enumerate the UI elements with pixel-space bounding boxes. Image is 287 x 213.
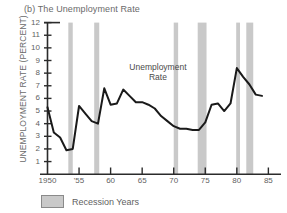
chart-legend: Recession Years [41, 195, 139, 208]
y-tick-label-11: 11 [26, 30, 40, 39]
recession-band-5 [246, 23, 253, 175]
series-annotation-line2: Rate [149, 72, 167, 82]
recession-band-0 [68, 23, 72, 175]
y-tick-label-4: 4 [26, 119, 40, 128]
x-tick-label-1980: 80 [223, 176, 251, 185]
y-tick-label-1: 1 [26, 157, 40, 166]
y-tick-label-2: 2 [26, 144, 40, 153]
x-ticks-group [79, 168, 268, 175]
x-tick-label-1970: 70 [160, 176, 188, 185]
series-annotation: Unemployment Rate [124, 62, 192, 82]
recession-band-3 [198, 23, 207, 175]
y-tick-label-5: 5 [26, 106, 40, 115]
axes-group [40, 22, 281, 174]
x-tick-label-1950: 1950 [34, 176, 62, 185]
y-tick-label-12: 12 [26, 18, 40, 27]
y-tick-label-7: 7 [26, 81, 40, 90]
recession-bands-group [68, 23, 253, 175]
x-tick-label-1985: 85 [254, 176, 282, 185]
y-tick-label-10: 10 [26, 43, 40, 52]
unemployment-rate-figure: (b) The Unemployment Rate UNEMPLOYMENT R… [0, 0, 287, 213]
y-tick-label-3: 3 [26, 131, 40, 140]
recession-band-4 [236, 23, 240, 175]
series-annotation-line1: Unemployment [129, 62, 186, 72]
legend-label: Recession Years [72, 197, 139, 207]
recession-band-2 [174, 23, 178, 175]
x-tick-label-1975: 75 [191, 176, 219, 185]
x-tick-label-1955: '55 [65, 176, 93, 185]
x-tick-label-1965: 65 [128, 176, 156, 185]
recession-band-1 [94, 23, 99, 175]
x-tick-label-1960: 60 [97, 176, 125, 185]
y-tick-label-9: 9 [26, 56, 40, 65]
y-tick-label-6: 6 [26, 93, 40, 102]
y-tick-label-8: 8 [26, 68, 40, 77]
recession-years-swatch [41, 195, 64, 208]
